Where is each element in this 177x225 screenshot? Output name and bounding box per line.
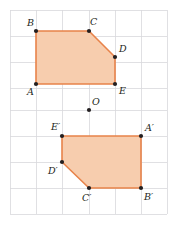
- vertex-label-a-prime: A′: [144, 122, 155, 133]
- vertex-label-a: A: [26, 86, 34, 97]
- geometry-figure: ABCDEA′B′C′D′E′O: [0, 0, 177, 225]
- vertex-dot-c-prime: [87, 186, 91, 190]
- vertex-dot-e: [113, 82, 117, 86]
- center-of-rotation-dot: [87, 108, 91, 112]
- center-of-rotation-label: O: [92, 96, 100, 107]
- vertex-label-d-prime: D′: [47, 165, 59, 176]
- vertex-dot-a: [34, 82, 38, 86]
- vertex-dot-b-prime: [139, 186, 143, 190]
- vertex-label-c-prime: C′: [82, 192, 92, 203]
- vertex-label-d: D: [118, 43, 127, 54]
- figure-canvas: ABCDEA′B′C′D′E′O: [0, 0, 177, 225]
- vertex-label-b-prime: B′: [143, 191, 154, 202]
- vertex-label-e: E: [118, 85, 126, 96]
- vertex-dot-e-prime: [60, 134, 64, 138]
- vertex-dot-d-prime: [60, 160, 64, 164]
- vertex-label-e-prime: E′: [50, 121, 61, 132]
- vertex-label-c: C: [90, 16, 98, 27]
- vertex-dot-b: [34, 29, 38, 33]
- vertex-label-b: B: [26, 17, 34, 28]
- vertex-dot-c: [87, 29, 91, 33]
- vertex-dot-d: [113, 55, 117, 59]
- vertex-dot-a-prime: [139, 134, 143, 138]
